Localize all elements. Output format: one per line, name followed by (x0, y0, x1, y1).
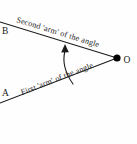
vertex-label-o: O (124, 55, 131, 65)
second-arm-caption: Second 'arm' of the angle (15, 15, 100, 49)
first-arm-caption: First 'arm' of the angle (19, 61, 94, 97)
endpoint-label-a: A (2, 88, 9, 98)
angle-figure-svg: O B A Second 'arm' of the angle First 'a… (0, 0, 137, 144)
angle-diagram: O B A Second 'arm' of the angle First 'a… (0, 0, 137, 144)
arc-arrowhead-icon (61, 44, 69, 52)
endpoint-label-b: B (2, 26, 8, 36)
vertex-dot-icon (113, 54, 120, 61)
